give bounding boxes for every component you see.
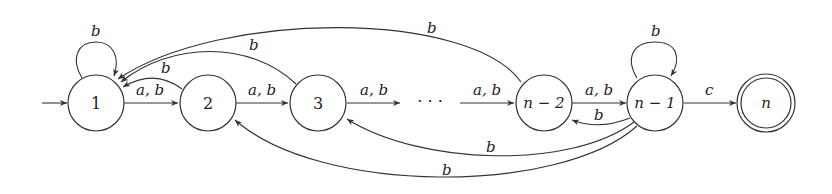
edge-label-n1-2: b (442, 161, 452, 179)
state-label: n (761, 94, 771, 112)
edge-label-n1-n1: b (651, 22, 661, 40)
edge-n1-n1 (631, 42, 676, 78)
state-1: 1 (68, 75, 124, 131)
edge-n1-2 (235, 120, 637, 177)
edge-label-3-dots: a, b (360, 81, 388, 99)
edge-label-n2-n1: a, b (585, 81, 613, 99)
state-label: n − 2 (523, 94, 564, 112)
state-label: n − 1 (634, 94, 675, 112)
edge-label-n1-3: b (486, 138, 496, 156)
automaton-diagram: b a, b b a, b b a, b a, b b a, b b b (0, 0, 832, 194)
edge-label-dots-n2: a, b (473, 81, 501, 99)
ellipsis-label: · · · (417, 92, 442, 111)
edge-1-1 (76, 42, 116, 78)
edge-label-n1-n: c (705, 81, 714, 99)
state-3: 3 (290, 75, 346, 131)
edge-label-1-1: b (91, 22, 101, 40)
edge-label-2-3: a, b (248, 81, 276, 99)
edge-label-n1-n2: b (594, 106, 604, 124)
edge-label-3-1: b (249, 36, 259, 54)
state-label: 2 (203, 94, 213, 113)
state-n-minus-2: n − 2 (516, 75, 572, 131)
state-n-minus-1: n − 1 (627, 75, 683, 131)
state-2: 2 (180, 75, 236, 131)
state-n-accepting: n (737, 74, 795, 132)
state-label: 1 (91, 94, 101, 113)
state-label: 3 (313, 94, 323, 113)
edge-label-2-1: b (161, 59, 171, 77)
state-ellipsis: · · · (417, 92, 442, 111)
edge-label-n2-1: b (427, 19, 437, 37)
edge-label-1-2: a, b (136, 81, 164, 99)
